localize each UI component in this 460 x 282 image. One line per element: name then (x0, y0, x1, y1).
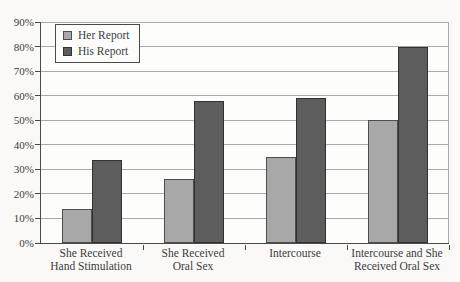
gridline-90 (41, 22, 449, 23)
plot-area: Her ReportHis Report (40, 22, 449, 244)
x-tick-4 (449, 245, 450, 250)
bar-her-report-2 (266, 157, 296, 243)
y-tick-label-20: 20% (0, 188, 34, 200)
y-tick-30 (35, 169, 40, 170)
legend-swatch-icon (63, 47, 72, 56)
y-tick-label-50: 50% (0, 114, 34, 126)
bar-his-report-1 (194, 101, 224, 243)
y-tick-label-90: 90% (0, 16, 34, 28)
y-tick-label-40: 40% (0, 139, 34, 151)
legend-label: Her Report (78, 29, 129, 42)
y-tick-label-60: 60% (0, 90, 34, 102)
category-label-3: Intercourse and She Received Oral Sex (335, 247, 459, 273)
bar-her-report-3 (368, 120, 398, 243)
y-tick-90 (35, 22, 40, 23)
bar-chart-figure: Her ReportHis Report 0%10%20%30%40%50%60… (0, 0, 460, 282)
y-tick-10 (35, 218, 40, 219)
y-tick-label-10: 10% (0, 212, 34, 224)
bar-his-report-2 (296, 98, 326, 243)
legend-swatch-icon (63, 31, 72, 40)
y-tick-50 (35, 120, 40, 121)
plot-right-border (448, 22, 449, 243)
y-tick-0 (35, 243, 40, 244)
y-tick-80 (35, 46, 40, 47)
y-tick-60 (35, 95, 40, 96)
bar-his-report-0 (92, 160, 122, 243)
y-tick-40 (35, 144, 40, 145)
gridline-60 (41, 95, 449, 96)
x-tick-2 (245, 245, 246, 250)
y-tick-label-80: 80% (0, 41, 34, 53)
legend-entry-his-report: His Report (63, 45, 129, 58)
bar-her-report-0 (62, 209, 92, 243)
y-tick-20 (35, 193, 40, 194)
bar-his-report-3 (398, 47, 428, 243)
y-tick-label-30: 30% (0, 163, 34, 175)
legend-entry-her-report: Her Report (63, 29, 129, 42)
legend: Her ReportHis Report (55, 24, 140, 63)
x-tick-1 (143, 245, 144, 250)
bar-her-report-1 (164, 179, 194, 243)
x-tick-3 (347, 245, 348, 250)
gridline-70 (41, 71, 449, 72)
y-tick-label-70: 70% (0, 65, 34, 77)
y-tick-70 (35, 71, 40, 72)
legend-label: His Report (78, 45, 128, 58)
